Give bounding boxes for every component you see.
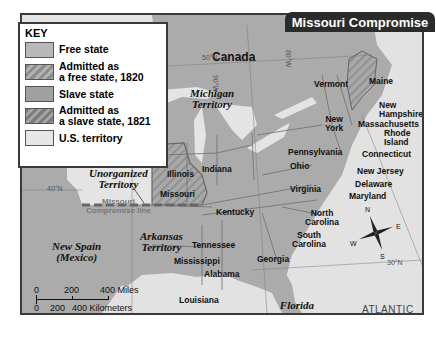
label-new-hampshire-line2: Hampshire [379, 109, 423, 119]
ocean-line2: OCEAN [369, 315, 407, 316]
label-new-york: NewYork [325, 115, 343, 133]
label-rhode-island-line2: Island [384, 137, 409, 147]
label-kentucky: Kentucky [216, 208, 254, 217]
key-item-slave-state: Slave state [25, 86, 161, 102]
compass-w: W [350, 240, 357, 247]
label-pennsylvania: Pennsylvania [288, 148, 342, 157]
map-key: KEY Free state Admitted asa free state, … [18, 22, 168, 168]
compass-e: E [396, 223, 401, 230]
key-label-us-territory: U.S. territory [59, 133, 123, 144]
label-michigan-line2: Territory [192, 98, 232, 110]
label-north-carolina: NorthCarolina [305, 209, 339, 227]
label-lon-90: 90°W [212, 75, 219, 92]
compass-icon [356, 213, 396, 253]
label-maine: Maine [369, 77, 393, 86]
scale-tick-400mi [108, 296, 109, 300]
label-new-york-line2: York [325, 123, 343, 133]
key-label-admitted-free-line2: a free state, 1820 [59, 71, 144, 83]
key-item-free-state: Free state [25, 42, 161, 58]
label-arkansas-territory: ArkansasTerritory [140, 231, 183, 253]
label-mississippi: Mississippi [174, 257, 220, 266]
scale-km-400: 400 Kilometers [72, 303, 132, 313]
key-item-us-territory: U.S. territory [25, 130, 161, 146]
label-unorganized-territory: UnorganizedTerritory [89, 168, 148, 190]
key-label-admitted-slave-line2: a slave state, 1821 [59, 115, 151, 127]
compromise-line-text2: Compromise line [86, 206, 151, 215]
label-georgia: Georgia [257, 255, 289, 264]
swatch-admitted-free [25, 64, 54, 80]
compass-rose: N S E W [356, 213, 396, 253]
label-virginia: Virginia [290, 185, 321, 194]
label-connecticut: Connecticut [362, 150, 411, 159]
label-south-carolina-line2: Carolina [292, 239, 326, 249]
label-compromise-line: MissouriCompromise line [86, 198, 151, 216]
label-lon-80: 80°W [285, 50, 292, 67]
scale-tick-200mi [72, 296, 73, 300]
label-tennessee: Tennessee [192, 241, 235, 250]
label-unorganized-line2: Territory [98, 178, 138, 190]
scale-miles-200: 200 [64, 285, 79, 295]
scale-miles-400: 400 Miles [100, 285, 139, 295]
label-new-spain: New Spain(Mexico) [52, 241, 101, 263]
label-florida-territory: FloridaTerritory [277, 300, 317, 315]
label-maryland: Maryland [349, 192, 386, 201]
scale-km-200: 200 [50, 303, 65, 313]
label-new-hampshire: NewHampshire [379, 101, 423, 119]
label-lat-40: 40°N [47, 185, 63, 192]
scale-km-0: 0 [34, 303, 39, 313]
label-vermont: Vermont [314, 80, 348, 89]
label-north-carolina-line2: Carolina [305, 217, 339, 227]
label-illinois: Illinois [167, 170, 194, 179]
compromise-line-text1: Missouri [102, 197, 135, 206]
ocean-line1: ATLANTIC [362, 304, 414, 315]
label-alabama: Alabama [204, 270, 239, 279]
key-heading: KEY [25, 27, 161, 39]
label-delaware: Delaware [355, 180, 392, 189]
compass-s: S [380, 253, 385, 260]
label-arkansas-line2: Territory [141, 241, 181, 253]
key-item-admitted-free: Admitted asa free state, 1820 [25, 61, 161, 83]
swatch-us-territory [25, 130, 54, 146]
label-missouri: Missouri [160, 190, 195, 199]
label-lat-30: 30°N [387, 259, 403, 266]
label-lat-50: 50°N [202, 54, 218, 61]
label-new-spain-line2: (Mexico) [56, 251, 97, 263]
label-ohio: Ohio [290, 162, 309, 171]
swatch-free-state [25, 42, 54, 58]
key-label-slave-state: Slave state [59, 89, 114, 100]
label-canada: Canada [212, 50, 255, 64]
scale-bar: 0 200 400 Miles 0 200 400 Kilometers [34, 285, 144, 315]
label-florida-line2: Territory [277, 310, 317, 315]
label-indiana: Indiana [202, 165, 232, 174]
key-label-admitted-slave: Admitted asa slave state, 1821 [59, 105, 151, 127]
label-rhode-island: RhodeIsland [384, 129, 410, 147]
compass-n: N [365, 206, 370, 213]
label-atlantic-ocean: ATLANTICOCEAN [362, 305, 414, 315]
scale-miles-0: 0 [34, 285, 39, 295]
label-new-jersey: New Jersey [357, 167, 404, 176]
label-louisiana: Louisiana [179, 296, 219, 305]
label-south-carolina: SouthCarolina [292, 231, 326, 249]
map-title: Missouri Compromise [285, 12, 435, 32]
swatch-slave-state [25, 86, 54, 102]
key-label-free-state: Free state [59, 44, 109, 55]
swatch-admitted-slave [25, 108, 54, 124]
key-label-admitted-free: Admitted asa free state, 1820 [59, 61, 144, 83]
key-item-admitted-slave: Admitted asa slave state, 1821 [25, 105, 161, 127]
